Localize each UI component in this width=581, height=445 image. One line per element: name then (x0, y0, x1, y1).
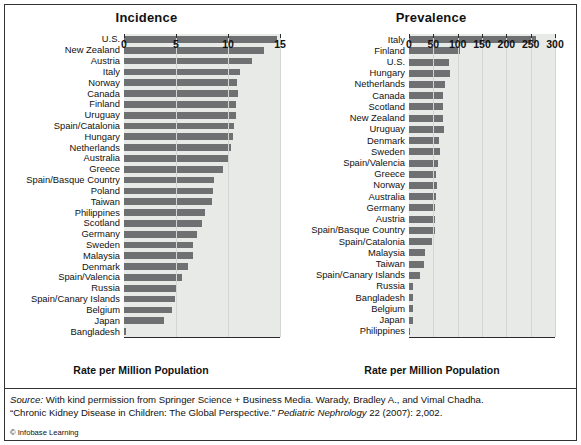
category-label: Canada (87, 89, 120, 98)
bar (409, 328, 410, 335)
publisher-credit: © Infobase Learning (10, 428, 79, 437)
category-label: Hungary (370, 69, 405, 78)
category-label: Greece (374, 170, 405, 179)
journal-name: Pediatric Nephrology (278, 407, 367, 418)
category-label: Sweden (86, 240, 120, 249)
bar (124, 328, 126, 335)
category-label: Belgium (371, 304, 405, 313)
category-label: Uruguay (85, 110, 120, 119)
bar (124, 296, 175, 303)
category-label: Australia (369, 192, 405, 201)
category-label: Netherlands (69, 143, 120, 152)
bar (409, 317, 413, 324)
category-label: Norway (88, 78, 120, 87)
category-label: Austria (376, 214, 405, 223)
bar-row: Canada (124, 90, 280, 97)
plot-canvas-prevalence: ItalyFinlandU.S.HungaryNetherlandsCanada… (409, 34, 555, 338)
source-line-1-text: With kind permission from Springer Scien… (43, 394, 484, 405)
gridline (458, 34, 459, 337)
x-axis-label-prevalence: Rate per Million Population (322, 364, 542, 376)
caption-divider (5, 388, 576, 389)
category-label: Spain/Basque Country (311, 226, 405, 235)
source-caption: Source: With kind permission from Spring… (10, 394, 573, 420)
tick-label: 250 (522, 38, 540, 50)
bar (124, 285, 177, 292)
category-label: Germany (81, 229, 120, 238)
category-label: Bangladesh (355, 293, 405, 302)
tick-label: 0 (121, 38, 127, 50)
bar (409, 59, 449, 66)
bar-row: Poland (124, 188, 280, 195)
source-line-1: Source: With kind permission from Spring… (10, 394, 573, 407)
category-label: Philippines (360, 327, 405, 336)
publisher-name: Infobase Learning (16, 428, 79, 437)
bar-row: Austria (124, 58, 280, 65)
bar-row: Spain/Catalonia (124, 123, 280, 130)
bar (124, 209, 205, 216)
tick-label: 100 (449, 38, 467, 50)
bar-row: Hungary (124, 133, 280, 140)
gridline (482, 34, 483, 337)
x-axis-ticks-prevalence: 050100150200250300 (292, 34, 570, 56)
source-line-2-end: 22 (2007): 2,002. (367, 407, 443, 418)
bar (124, 69, 240, 76)
bar (124, 177, 214, 184)
category-label: Sweden (371, 147, 405, 156)
bar (409, 227, 435, 234)
bar (409, 115, 443, 122)
bar (409, 103, 443, 110)
category-label: Taiwan (376, 259, 405, 268)
bar (409, 193, 436, 200)
bar-row: Scotland (124, 220, 280, 227)
bar (124, 123, 234, 130)
bar (124, 317, 164, 324)
bar (124, 144, 231, 151)
category-label: Australia (84, 154, 120, 163)
category-label: Norway (373, 181, 405, 190)
gridline (531, 34, 532, 337)
bar-row: Germany (124, 231, 280, 238)
gridline (176, 34, 177, 337)
bar-row: Denmark (124, 263, 280, 270)
bar-row: Uruguay (124, 112, 280, 119)
bar-row: Belgium (124, 307, 280, 314)
bar (409, 70, 450, 77)
gridline (280, 34, 281, 337)
category-label: Malaysia (83, 251, 120, 260)
tick-label: 0 (406, 38, 412, 50)
bar (409, 294, 413, 301)
chart-title-incidence: Incidence (5, 10, 288, 25)
bar (124, 188, 213, 195)
x-axis-ticks-incidence: 051015 (5, 34, 288, 56)
category-label: Denmark (82, 262, 120, 271)
category-label: Spain/Basque Country (26, 175, 120, 184)
bar-row: Norway (124, 79, 280, 86)
category-label: Russia (91, 284, 120, 293)
source-line-2-start: “Chronic Kidney Disease in Children: The… (10, 407, 278, 418)
category-label: Austria (91, 56, 120, 65)
bar-rows-incidence: U.S.New ZealandAustriaItalyNorwayCanadaF… (124, 34, 280, 337)
bar (124, 90, 238, 97)
bar-row: Spain/Valencia (124, 274, 280, 281)
bar (124, 166, 223, 173)
bar-row: Australia (124, 155, 280, 162)
category-label: Spain/Canary Islands (316, 271, 405, 280)
category-label: Belgium (86, 305, 120, 314)
bar-row: Italy (124, 69, 280, 76)
tick-label: 300 (546, 38, 564, 50)
category-label: Uruguay (370, 125, 405, 134)
category-label: Scotland (84, 219, 120, 228)
bar (409, 171, 436, 178)
bar-row: Malaysia (124, 252, 280, 259)
bar (124, 79, 237, 86)
bar (409, 261, 424, 268)
bar (409, 272, 420, 279)
bar-row: Sweden (124, 242, 280, 249)
bar (409, 249, 425, 256)
category-label: Poland (91, 186, 120, 195)
tick-label: 15 (274, 38, 286, 50)
chart-title-prevalence: Prevalence (292, 10, 570, 25)
category-label: Spain/Valencia (343, 158, 405, 167)
source-label: Source: (10, 394, 43, 405)
gridline (555, 34, 556, 337)
